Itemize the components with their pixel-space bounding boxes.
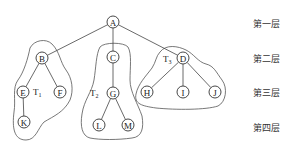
edge-e-k bbox=[23, 98, 24, 116]
node-l: L bbox=[93, 119, 105, 131]
node-label: D bbox=[180, 54, 187, 64]
edge-b-e bbox=[26, 63, 39, 87]
node-c: C bbox=[107, 51, 119, 63]
node-label: G bbox=[110, 89, 117, 99]
node-f: F bbox=[54, 86, 66, 98]
edge-b-f bbox=[45, 63, 57, 86]
edge-d-j bbox=[187, 62, 211, 87]
node-g: G bbox=[107, 87, 119, 99]
node-j: J bbox=[209, 86, 221, 98]
level-label-3: 第三层 bbox=[253, 86, 280, 99]
node-label: E bbox=[20, 88, 26, 98]
node-label: M bbox=[124, 121, 132, 131]
node-b: B bbox=[36, 52, 48, 64]
edge-d-h bbox=[151, 62, 178, 88]
tree-nodes: ABCDEFGHIJKLM bbox=[17, 16, 221, 131]
level-label-4: 第四层 bbox=[253, 121, 280, 134]
node-label: H bbox=[144, 88, 151, 98]
node-i: I bbox=[177, 86, 189, 98]
node-label: I bbox=[182, 88, 185, 98]
node-d: D bbox=[177, 52, 189, 64]
node-label: L bbox=[96, 121, 102, 131]
tree-edges bbox=[23, 25, 211, 120]
node-h: H bbox=[141, 86, 153, 98]
node-label: J bbox=[213, 88, 217, 98]
tree-diagram: ABCDEFGHIJKLM T1T2T3 bbox=[0, 0, 293, 150]
node-e: E bbox=[17, 86, 29, 98]
subtree-label-t2: T2 bbox=[90, 88, 99, 99]
node-label: A bbox=[110, 18, 117, 28]
node-label: K bbox=[21, 118, 28, 128]
edge-g-l bbox=[101, 98, 110, 119]
level-label-1: 第一层 bbox=[253, 17, 280, 30]
node-label: C bbox=[110, 53, 116, 63]
node-label: B bbox=[39, 54, 45, 64]
node-k: K bbox=[18, 116, 30, 128]
edge-a-d bbox=[118, 25, 177, 56]
node-m: M bbox=[122, 119, 134, 131]
edge-g-m bbox=[116, 98, 126, 119]
subtree-label-t1: T1 bbox=[33, 87, 42, 98]
node-a: A bbox=[107, 16, 119, 28]
subtree-label-t3: T3 bbox=[163, 54, 172, 65]
node-label: F bbox=[57, 88, 62, 98]
level-label-2: 第二层 bbox=[253, 52, 280, 65]
